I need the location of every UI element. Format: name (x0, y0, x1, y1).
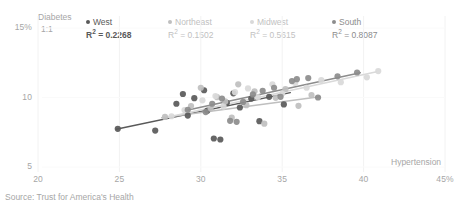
data-point (219, 96, 225, 102)
data-point (180, 91, 186, 97)
data-point (375, 68, 381, 74)
data-point (240, 99, 246, 105)
data-points (115, 68, 382, 143)
data-point (318, 77, 324, 83)
data-point (261, 121, 267, 127)
data-point (168, 113, 174, 119)
data-point (203, 109, 209, 115)
data-point (295, 103, 301, 109)
data-point (185, 112, 191, 118)
data-point (315, 94, 321, 100)
data-point (237, 104, 243, 110)
data-point (250, 91, 256, 97)
data-point (198, 85, 204, 91)
plot-area (0, 0, 473, 207)
data-point (217, 136, 223, 142)
data-point (209, 101, 215, 107)
data-point (162, 114, 168, 120)
gridlines (38, 16, 445, 172)
data-point (152, 127, 158, 133)
data-point (227, 118, 233, 124)
data-point (334, 73, 340, 79)
data-point (212, 93, 218, 99)
data-point (220, 103, 226, 109)
data-point (305, 75, 311, 81)
data-point (173, 101, 179, 107)
data-point (277, 94, 283, 100)
data-point (354, 69, 360, 75)
data-point (260, 88, 266, 94)
data-point (234, 119, 240, 125)
data-point (185, 107, 191, 113)
data-point (266, 94, 272, 100)
data-point (364, 74, 370, 80)
data-point (308, 92, 314, 98)
scatter-chart: Diabetes 1:1 Hypertension WestR2 = 0.226… (0, 0, 473, 207)
data-point (271, 85, 277, 91)
source-note: Source: Trust for America's Health (5, 192, 134, 202)
data-point (235, 81, 241, 87)
data-point (245, 85, 251, 91)
trendlines (116, 72, 376, 129)
trendline (168, 72, 376, 117)
data-point (281, 101, 287, 107)
data-point (338, 79, 344, 85)
data-point (199, 97, 205, 103)
data-point (211, 135, 217, 141)
data-point (191, 95, 197, 101)
data-point (294, 76, 300, 82)
data-point (232, 89, 238, 95)
data-point (115, 126, 121, 132)
data-point (304, 85, 310, 91)
